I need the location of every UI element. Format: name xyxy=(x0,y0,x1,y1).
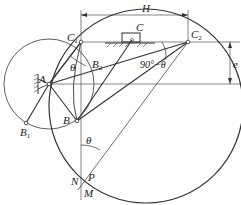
arrow-right-icon xyxy=(182,13,188,17)
label-b: B xyxy=(63,114,70,126)
label-h: H xyxy=(141,2,151,14)
arrow-left-icon xyxy=(81,13,87,17)
mechanism-diagram: H e A C1 C2 C B2 B B1 θ 90°−θ θ N P M xyxy=(0,0,241,205)
arc-c1-b xyxy=(73,42,81,121)
label-c: C xyxy=(136,21,144,33)
label-theta-top: θ xyxy=(70,61,76,73)
joint-c1 xyxy=(79,40,83,44)
coupler-b-c xyxy=(77,40,132,121)
label-b1: B1 xyxy=(20,126,31,140)
label-ninety-minus-theta: 90°−θ xyxy=(140,59,166,70)
arrow-up-icon xyxy=(228,42,232,48)
label-theta-bottom: θ xyxy=(86,134,92,146)
arrow-down-icon xyxy=(228,78,232,84)
label-a: A xyxy=(38,73,46,85)
label-n: N xyxy=(70,175,79,187)
ground-hatch-icon xyxy=(34,74,38,92)
joint-b1 xyxy=(24,121,28,125)
joint-b xyxy=(75,119,79,123)
label-p: P xyxy=(87,171,95,183)
label-c2: C2 xyxy=(191,28,202,42)
joint-a xyxy=(47,82,51,86)
label-m: M xyxy=(83,187,94,199)
label-b2: B2 xyxy=(92,58,103,72)
joint-c2 xyxy=(186,40,190,44)
ninety-minus-theta-arc xyxy=(162,42,166,60)
label-c1: C1 xyxy=(67,31,78,45)
label-e: e xyxy=(233,58,238,70)
